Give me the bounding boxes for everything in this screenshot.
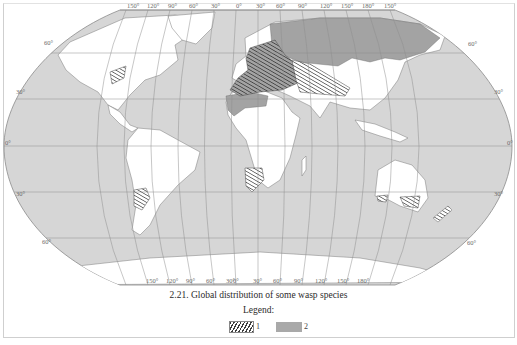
solid-swatch-icon (276, 322, 302, 332)
svg-text:180°: 180° (362, 2, 375, 9)
legend-item-1: 1 (229, 321, 276, 333)
svg-text:0°: 0° (233, 277, 239, 284)
legend-title: Legend: (0, 305, 517, 315)
svg-text:120°: 120° (315, 277, 328, 284)
svg-text:30°: 30° (494, 190, 504, 197)
legend-label: 1 (256, 322, 260, 331)
svg-text:180°: 180° (357, 277, 370, 284)
range-1-sw-australia (377, 195, 388, 202)
svg-text:90°: 90° (298, 2, 308, 9)
legend-label: 2 (304, 322, 308, 331)
svg-text:60°: 60° (273, 277, 283, 284)
svg-text:120°: 120° (320, 2, 333, 9)
svg-text:150°: 150° (337, 277, 350, 284)
figure-caption: 2.21. Global distribution of some wasp s… (0, 290, 517, 300)
svg-text:0°: 0° (5, 139, 11, 146)
svg-text:0°: 0° (507, 139, 513, 146)
svg-text:30°: 30° (211, 2, 221, 9)
svg-text:90°: 90° (294, 277, 304, 284)
svg-text:60°: 60° (467, 239, 477, 246)
svg-text:30°: 30° (253, 277, 263, 284)
svg-text:150°: 150° (341, 2, 354, 9)
svg-text:150°: 150° (127, 2, 140, 9)
svg-text:30°: 30° (16, 88, 26, 95)
svg-text:0°: 0° (236, 2, 242, 9)
svg-text:30°: 30° (256, 2, 266, 9)
hatched-swatch-icon (229, 321, 254, 333)
svg-text:150°: 150° (384, 2, 397, 9)
legend: 1 2 (229, 321, 324, 332)
svg-text:60°: 60° (189, 2, 199, 9)
longitude-labels-top: 150° 120° 90° 60° 30° 0° 30° 60° 90° 120… (127, 2, 397, 9)
svg-text:90°: 90° (168, 2, 178, 9)
svg-text:150°: 150° (146, 277, 159, 284)
svg-text:120°: 120° (147, 2, 160, 9)
svg-text:30°: 30° (16, 190, 26, 197)
svg-text:120°: 120° (166, 277, 179, 284)
svg-text:90°: 90° (186, 277, 196, 284)
svg-text:60°: 60° (276, 2, 286, 9)
svg-text:60°: 60° (44, 39, 54, 46)
svg-text:60°: 60° (468, 40, 478, 47)
legend-item-2: 2 (276, 322, 324, 332)
svg-text:30°: 30° (494, 88, 504, 95)
svg-text:60°: 60° (42, 238, 52, 245)
svg-text:60°: 60° (206, 277, 216, 284)
